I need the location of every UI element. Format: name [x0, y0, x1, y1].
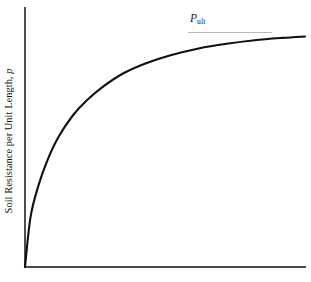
- plot-canvas: [0, 0, 311, 282]
- pult-symbol: P: [190, 12, 197, 24]
- figure-background: [0, 0, 311, 282]
- p-y-curve-figure: Soil Resistance per Unit Length, p Pult: [0, 0, 311, 282]
- pult-subscript: ult: [197, 17, 205, 26]
- ultimate-resistance-label: Pult: [190, 13, 205, 26]
